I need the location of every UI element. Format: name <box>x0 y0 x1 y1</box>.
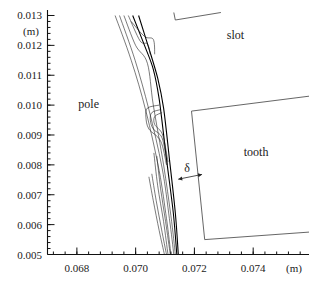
y-tick-label: 0.013 <box>17 9 42 21</box>
contour-6 <box>128 16 150 55</box>
annotations: poleslottoothδ <box>78 28 268 180</box>
y-tick-label: 0.005 <box>17 249 42 261</box>
x-tick-label: 0.070 <box>123 262 148 274</box>
contour-layer <box>115 16 178 255</box>
y-tick-label: 0.007 <box>17 189 42 201</box>
y-tick-label: 0.012 <box>17 39 42 51</box>
x-axis-unit-label: (m) <box>286 262 302 275</box>
region-label: pole <box>78 97 99 111</box>
axes <box>48 10 310 255</box>
x-tick-label: 0.074 <box>241 262 266 274</box>
arrowhead <box>178 176 182 180</box>
tick-labels: 0.0680.0700.0720.0740.0130.0120.0110.010… <box>17 9 266 274</box>
y-tick-label: 0.011 <box>18 69 42 81</box>
x-tick-label: 0.072 <box>182 262 207 274</box>
x-tick-label: 0.068 <box>65 262 90 274</box>
y-tick-label: 0.006 <box>17 219 42 231</box>
y-tick-label: 0.010 <box>17 99 42 111</box>
tooth-outline <box>192 96 310 239</box>
region-label: δ <box>184 161 190 175</box>
region-label: slot <box>227 28 245 42</box>
slot-upper-edge <box>174 13 221 21</box>
boundary-layer <box>174 13 309 240</box>
flux-contour-chart: 0.0680.0700.0720.0740.0130.0120.0110.010… <box>0 0 316 286</box>
contour-7 <box>131 22 155 55</box>
y-tick-label: 0.008 <box>17 159 42 171</box>
y-axis-unit-label: (m) <box>23 25 39 38</box>
region-label: tooth <box>244 145 269 159</box>
y-tick-label: 0.009 <box>17 129 42 141</box>
